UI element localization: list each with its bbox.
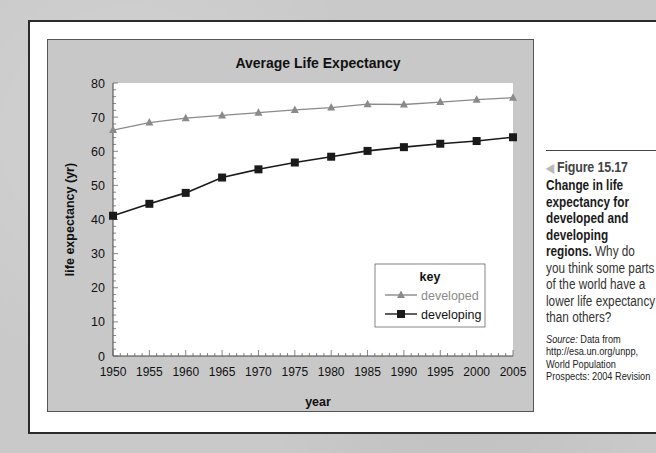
x-tick-label: 2005 <box>500 365 527 379</box>
line-chart: Average Life Expectancy01020304050607080… <box>48 40 535 413</box>
data-point-developing <box>182 189 190 197</box>
x-tick-label: 1960 <box>172 365 199 379</box>
data-point-developing <box>436 140 444 148</box>
y-tick-label: 30 <box>91 247 105 261</box>
figure-number: Figure 15.17 <box>557 159 628 175</box>
left-arrow-icon: ◀ <box>546 161 554 175</box>
x-tick-label: 1990 <box>391 365 418 379</box>
data-point-developing <box>109 212 117 220</box>
x-tick-label: 1955 <box>136 365 163 379</box>
figure-title: Change in life expectancy for developed … <box>546 177 655 326</box>
data-point-developing <box>254 165 262 173</box>
legend-marker-developing <box>397 310 405 318</box>
figure-label: ◀Figure 15.17 <box>546 159 642 177</box>
x-tick-label: 1975 <box>281 365 308 379</box>
figure-source: Source: Data from http://esa.un.org/unpp… <box>546 334 656 384</box>
x-tick-label: 1970 <box>245 365 272 379</box>
data-point-developing <box>291 159 299 167</box>
x-tick-label: 2000 <box>463 365 490 379</box>
y-tick-label: 20 <box>91 281 105 295</box>
data-point-developing <box>218 174 226 182</box>
data-point-developing <box>364 147 372 155</box>
y-tick-label: 0 <box>98 350 105 364</box>
x-tick-label: 1985 <box>354 365 381 379</box>
data-point-developing <box>509 133 517 141</box>
figure-caption: ◀Figure 15.17 Change in life expectancy … <box>546 150 656 384</box>
legend-label-developed: developed <box>421 289 479 303</box>
data-point-developing <box>473 137 481 145</box>
y-tick-label: 70 <box>91 111 105 125</box>
legend-title: key <box>420 270 441 284</box>
x-tick-label: 1980 <box>318 365 345 379</box>
data-point-developing <box>327 153 335 161</box>
y-tick-label: 60 <box>91 145 105 159</box>
data-point-developing <box>145 200 153 208</box>
legend-label-developing: developing <box>421 308 482 322</box>
y-axis-label: life expectancy (yr) <box>63 163 77 276</box>
data-point-developing <box>400 143 408 151</box>
chart-panel: Average Life Expectancy01020304050607080… <box>47 39 534 412</box>
caption-divider <box>546 150 656 151</box>
y-tick-label: 10 <box>91 315 105 329</box>
x-axis-label: year <box>305 395 331 409</box>
y-tick-label: 50 <box>91 179 105 193</box>
x-tick-label: 1995 <box>427 365 454 379</box>
x-tick-label: 1965 <box>209 365 236 379</box>
y-tick-label: 80 <box>91 77 105 91</box>
source-label: Source: <box>546 334 578 345</box>
y-tick-label: 40 <box>91 213 105 227</box>
chart-title: Average Life Expectancy <box>235 55 400 71</box>
x-tick-label: 1950 <box>100 365 127 379</box>
